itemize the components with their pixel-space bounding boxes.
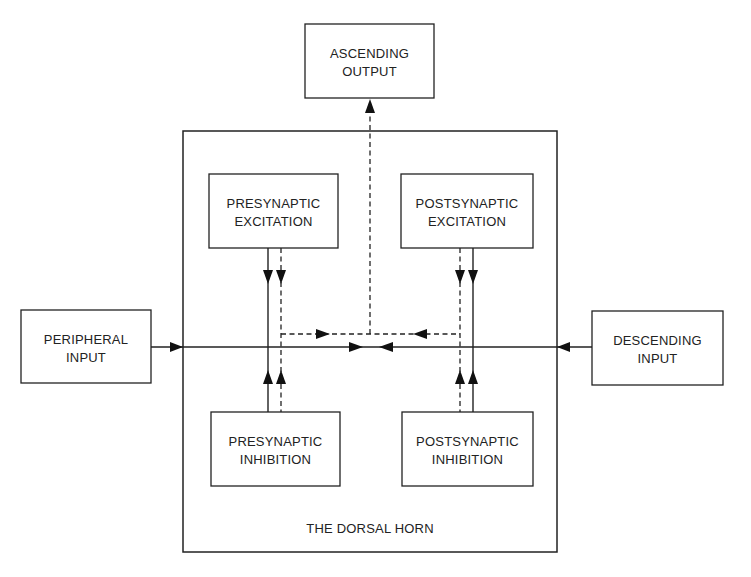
- svg-text:PERIPHERAL: PERIPHERAL: [44, 332, 128, 347]
- arrow-right-icon: [316, 329, 330, 339]
- arrow-up-icon: [276, 370, 286, 384]
- arrow-right-icon: [170, 342, 183, 352]
- presynaptic-inhibition-box: PRESYNAPTIC INHIBITION: [211, 412, 340, 486]
- svg-text:POSTSYNAPTIC: POSTSYNAPTIC: [416, 196, 519, 211]
- presynaptic-excitation-box: PRESYNAPTIC EXCITATION: [209, 174, 338, 248]
- arrow-up-icon: [455, 370, 465, 384]
- svg-text:INHIBITION: INHIBITION: [240, 452, 311, 467]
- svg-text:EXCITATION: EXCITATION: [234, 214, 312, 229]
- svg-text:EXCITATION: EXCITATION: [428, 214, 506, 229]
- postsynaptic-inhibition-box: POSTSYNAPTIC INHIBITION: [402, 412, 533, 486]
- svg-text:PRESYNAPTIC: PRESYNAPTIC: [229, 434, 323, 449]
- arrow-up-icon: [263, 370, 273, 384]
- svg-text:POSTSYNAPTIC: POSTSYNAPTIC: [416, 434, 519, 449]
- arrow-down-icon: [468, 270, 478, 284]
- postsynaptic-excitation-box: POSTSYNAPTIC EXCITATION: [401, 174, 533, 248]
- arrow-down-icon: [276, 270, 286, 284]
- arrow-right-icon: [349, 342, 363, 352]
- dorsal-horn-diagram: THE DORSAL HORN ASCENDING OUTPUT PRESYNA…: [0, 0, 751, 577]
- dorsal-horn-label: THE DORSAL HORN: [306, 521, 433, 536]
- svg-text:PRESYNAPTIC: PRESYNAPTIC: [227, 196, 321, 211]
- arrow-up-icon: [468, 370, 478, 384]
- arrow-left-icon: [413, 329, 427, 339]
- svg-text:DESCENDING: DESCENDING: [613, 333, 702, 348]
- arrow-up-icon: [365, 99, 375, 113]
- descending-input-box: DESCENDING INPUT: [592, 311, 723, 385]
- arrow-left-icon: [557, 342, 570, 352]
- svg-text:INHIBITION: INHIBITION: [432, 452, 503, 467]
- svg-text:INPUT: INPUT: [638, 351, 678, 366]
- arrow-down-icon: [263, 270, 273, 284]
- peripheral-input-box: PERIPHERAL INPUT: [21, 310, 151, 383]
- arrow-left-icon: [379, 342, 393, 352]
- svg-text:ASCENDING: ASCENDING: [330, 46, 409, 61]
- ascending-output-box: ASCENDING OUTPUT: [305, 24, 434, 98]
- arrow-down-icon: [455, 270, 465, 284]
- svg-text:OUTPUT: OUTPUT: [342, 64, 397, 79]
- svg-text:INPUT: INPUT: [66, 350, 106, 365]
